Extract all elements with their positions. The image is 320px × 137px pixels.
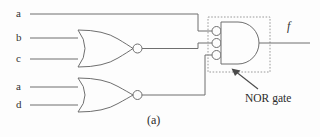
nor-gate-1-output-bubble xyxy=(133,44,142,53)
wire-nor1-output xyxy=(142,43,212,49)
nor-gate-2-output-bubble xyxy=(133,91,142,100)
output-label-f: f xyxy=(287,20,290,32)
and-gate-input-bubble-2 xyxy=(212,39,221,48)
and-gate-input-bubble-1 xyxy=(212,27,221,36)
input-label-a-top: a xyxy=(16,8,21,19)
input-label-c: c xyxy=(16,53,21,64)
annotation-arrow-line xyxy=(235,71,258,89)
nor-gate-1-body xyxy=(78,30,133,67)
nor-gate-2-body xyxy=(78,78,133,112)
wire-nor2-output xyxy=(142,55,212,95)
nor-gate-annotation-label: NOR gate xyxy=(245,93,291,105)
negative-and-gate-body xyxy=(221,22,259,64)
input-label-d: d xyxy=(16,99,22,110)
input-label-a-lower: a xyxy=(16,81,21,92)
and-gate-input-bubble-3 xyxy=(212,51,221,60)
wire-input-a-top xyxy=(30,14,212,31)
logic-circuit-figure: a b c a d f NOR gate (a) xyxy=(0,0,320,137)
figure-caption: (a) xyxy=(147,114,160,126)
input-label-b: b xyxy=(16,32,22,43)
